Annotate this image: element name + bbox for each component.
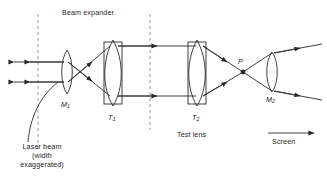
label-lens-t1: T1 [108,113,116,123]
ray-bundle-output [274,44,322,100]
label-lens-m1: M1 [61,100,70,110]
point-p-marker [241,70,246,75]
ray-output-lower-arrow [274,91,300,96]
figure-canvas: Beam expander M1 T1 T2 M2 P Test lens Sc… [0,0,327,180]
label-laser-beam-line1: Laser beam [4,142,80,151]
label-laser-beam: Laser beam (width exaggerated) [4,142,80,169]
label-laser-beam-line2: (width [4,151,80,160]
ray-output-upper-arrow [274,48,300,53]
laser-beam-leader-line [28,82,58,142]
lens-t1-mount [104,42,122,104]
label-laser-beam-line3: exaggerated) [4,160,80,169]
ray-converge-upper-arrow [203,46,227,62]
label-test-lens: Test lens [177,130,206,139]
lens-m1 [62,50,73,94]
lens-t2-mount [188,42,206,104]
label-lens-m2-subscript: 2 [272,98,275,104]
lens-m2 [267,52,278,92]
label-screen: Screen [272,137,295,146]
ray-converge-lower-arrow [203,82,227,96]
label-lens-m2: M2 [266,95,275,105]
ray-bundle-p-to-m2 [243,53,272,91]
ray-bundle-t2-to-p [203,46,243,96]
label-lens-t2: T2 [192,113,200,123]
ray-bundle-t1-to-t2 [118,46,196,96]
label-lens-t2-subscript: 2 [197,116,200,122]
label-lens-m1-subscript: 1 [67,103,70,109]
label-beam-expander: Beam expander [62,8,114,17]
ray-bundle-input [14,62,64,82]
label-lens-t1-subscript: 1 [113,116,116,122]
label-point-p: P [238,57,243,66]
lens-m2-glass [267,52,278,92]
lens-m1-glass [62,50,73,94]
